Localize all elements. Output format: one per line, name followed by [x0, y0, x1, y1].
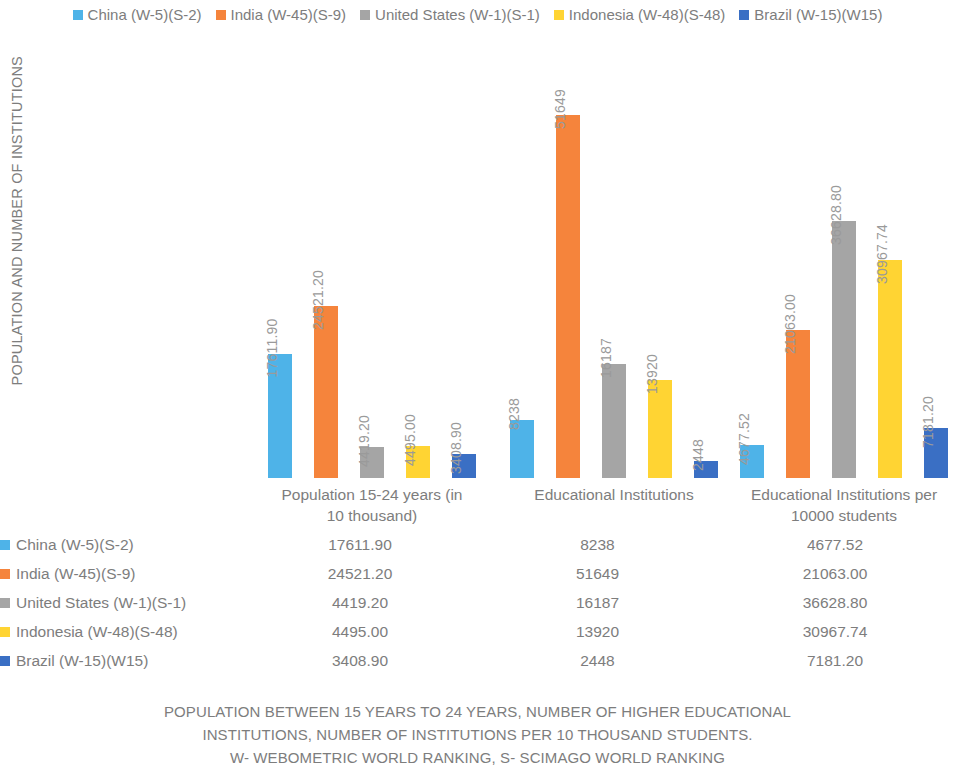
chart-data-table: China (W-5)(S-2)17611.9082384677.52India…: [0, 530, 955, 675]
table-cell-institutions-per-10000: 4677.52: [715, 530, 955, 559]
bar-value-label: 17611.90: [264, 319, 280, 378]
table-cell-institutions-per-10000: 7181.20: [715, 646, 955, 675]
bar-slot: 8238: [510, 40, 534, 480]
series-swatch-icon: [0, 598, 10, 608]
table-cell-population: 4419.20: [240, 588, 480, 617]
bar-group: 82385164916187139202448: [510, 40, 740, 480]
legend-swatch-icon: [554, 10, 564, 20]
category-label: Population 15-24 years (in10 thousand): [257, 484, 487, 526]
bar-group: 17611.9024521.204419.204495.003408.90: [268, 40, 498, 480]
series-name: Brazil (W-15)(W15): [16, 652, 148, 669]
bar-slot: 4419.20: [360, 40, 384, 480]
bar-slot: 30967.74: [878, 40, 902, 480]
category-axis-labels: Population 15-24 years (in10 thousand)Ed…: [40, 484, 955, 528]
legend-item[interactable]: China (W-5)(S-2): [73, 6, 202, 23]
category-label-line: 10000 students: [729, 505, 955, 526]
table-row-series-label: China (W-5)(S-2): [0, 530, 240, 559]
table-cell-institutions: 16187: [480, 588, 715, 617]
bar-value-label: 16187: [598, 338, 614, 378]
bar[interactable]: [556, 115, 580, 478]
category-label-line: 10 thousand): [257, 505, 487, 526]
caption-line-3: W- WEBOMETRIC WORLD RANKING, S- SCIMAGO …: [0, 746, 955, 769]
legend-swatch-icon: [216, 10, 226, 20]
category-label-line: Educational Institutions per: [729, 484, 955, 505]
bar-value-label: 4677.52: [736, 413, 752, 465]
bar-value-label: 13920: [644, 354, 660, 394]
bar-value-label: 36628.80: [828, 185, 844, 245]
legend-item[interactable]: Brazil (W-15)(W15): [739, 6, 882, 23]
legend-item-label: United States (W-1)(S-1): [375, 6, 540, 23]
series-swatch-icon: [0, 627, 10, 637]
table-cell-institutions: 8238: [480, 530, 715, 559]
category-label: Educational Institutions per10000 studen…: [729, 484, 955, 526]
bar-group: 4677.5221063.0036628.8030967.747181.20: [740, 40, 955, 480]
caption-line-2: INSTITUTIONS, NUMBER OF INSTITUTIONS PER…: [0, 723, 955, 746]
caption-line-1: POPULATION BETWEEN 15 YEARS TO 24 YEARS,…: [0, 700, 955, 723]
bar-slot: 7181.20: [924, 40, 948, 480]
series-swatch-icon: [0, 569, 10, 579]
legend-item-label: China (W-5)(S-2): [88, 6, 202, 23]
legend-swatch-icon: [360, 10, 370, 20]
legend-item-label: India (W-45)(S-9): [231, 6, 347, 23]
bar-slot: 4495.00: [406, 40, 430, 480]
bar-value-label: 4419.20: [356, 415, 372, 467]
table-cell-institutions: 2448: [480, 646, 715, 675]
bar-slot: 51649: [556, 40, 580, 480]
table-cell-institutions-per-10000: 21063.00: [715, 559, 955, 588]
series-name: India (W-45)(S-9): [16, 565, 135, 582]
bar-slot: 17611.90: [268, 40, 292, 480]
y-axis-title: POPULATION AND NUMBER OF INSTITUTIONS: [4, 56, 30, 476]
table-cell-population: 17611.90: [240, 530, 480, 559]
bar[interactable]: [878, 260, 902, 478]
series-swatch-icon: [0, 540, 10, 550]
bar-value-label: 7181.20: [920, 396, 936, 448]
bar-slot: 4677.52: [740, 40, 764, 480]
legend-item-label: Brazil (W-15)(W15): [754, 6, 882, 23]
legend-item[interactable]: United States (W-1)(S-1): [360, 6, 540, 23]
bar-slot: 36628.80: [832, 40, 856, 480]
bar-value-label: 30967.74: [874, 224, 890, 284]
category-label: Educational Institutions: [499, 484, 729, 505]
legend-swatch-icon: [739, 10, 749, 20]
bar-slot: 13920: [648, 40, 672, 480]
bar-value-label: 24521.20: [310, 270, 326, 330]
table-cell-institutions: 51649: [480, 559, 715, 588]
table-row-series-label: Indonesia (W-48)(S-48): [0, 617, 240, 646]
bar-value-label: 21063.00: [782, 294, 798, 354]
bar-slot: 24521.20: [314, 40, 338, 480]
category-label-line: Population 15-24 years (in: [257, 484, 487, 505]
chart-legend: China (W-5)(S-2)India (W-45)(S-9)United …: [0, 6, 955, 23]
table-cell-population: 3408.90: [240, 646, 480, 675]
bar[interactable]: [648, 380, 672, 478]
table-cell-institutions-per-10000: 30967.74: [715, 617, 955, 646]
table-cell-population: 4495.00: [240, 617, 480, 646]
table-row-series-label: Brazil (W-15)(W15): [0, 646, 240, 675]
table-row: India (W-45)(S-9)24521.205164921063.00: [0, 559, 955, 588]
table-body: China (W-5)(S-2)17611.9082384677.52India…: [0, 530, 955, 675]
series-name: United States (W-1)(S-1): [16, 594, 186, 611]
legend-item[interactable]: India (W-45)(S-9): [216, 6, 347, 23]
bar[interactable]: [602, 364, 626, 478]
bar-slot: 21063.00: [786, 40, 810, 480]
bar-value-label: 8238: [506, 398, 522, 430]
table-row: Indonesia (W-48)(S-48)4495.001392030967.…: [0, 617, 955, 646]
table-cell-institutions-per-10000: 36628.80: [715, 588, 955, 617]
bar[interactable]: [314, 306, 338, 478]
legend-item-label: Indonesia (W-48)(S-48): [569, 6, 725, 23]
chart-plot-area: 17611.9024521.204419.204495.003408.90823…: [40, 40, 955, 480]
bar-slot: 16187: [602, 40, 626, 480]
table-row-series-label: United States (W-1)(S-1): [0, 588, 240, 617]
table-cell-population: 24521.20: [240, 559, 480, 588]
bar-value-label: 2448: [690, 439, 706, 471]
table-row-series-label: India (W-45)(S-9): [0, 559, 240, 588]
bar[interactable]: [832, 221, 856, 478]
table-row: China (W-5)(S-2)17611.9082384677.52: [0, 530, 955, 559]
series-swatch-icon: [0, 656, 10, 666]
legend-item[interactable]: Indonesia (W-48)(S-48): [554, 6, 725, 23]
series-name: China (W-5)(S-2): [16, 536, 134, 553]
bar-value-label: 4495.00: [402, 414, 418, 466]
table-cell-institutions: 13920: [480, 617, 715, 646]
table-row: United States (W-1)(S-1)4419.20161873662…: [0, 588, 955, 617]
bar-slot: 2448: [694, 40, 718, 480]
bar-value-label: 3408.90: [448, 422, 464, 474]
